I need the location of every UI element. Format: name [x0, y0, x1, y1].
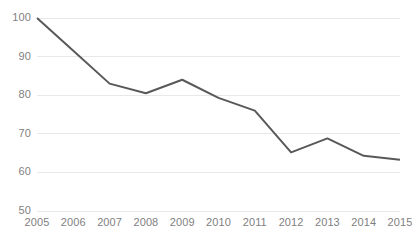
- series-line-index: [37, 18, 400, 211]
- series-line-index: [37, 18, 400, 160]
- x-tick-label: 2014: [351, 216, 376, 228]
- x-tick-label: 2013: [315, 216, 340, 228]
- y-tick-label: 90: [5, 51, 31, 62]
- x-tick-label: 2011: [243, 216, 267, 228]
- x-tick-label: 2006: [61, 216, 86, 228]
- x-tick-label: 2005: [25, 216, 50, 228]
- x-tick-label: 2010: [206, 216, 231, 228]
- y-tick-label: 50: [5, 205, 31, 216]
- x-axis: 2005200620072008200920102011201220132014…: [37, 216, 400, 234]
- y-tick-label: 70: [5, 128, 31, 139]
- y-axis: 5060708090100: [0, 18, 31, 211]
- y-tick-label: 100: [5, 12, 31, 23]
- plot-area: [37, 18, 400, 211]
- x-tick-label: 2007: [97, 216, 122, 228]
- x-tick-label: 2012: [279, 216, 304, 228]
- chart-title: [0, 0, 407, 2]
- x-tick-label: 2009: [170, 216, 195, 228]
- y-tick-label: 80: [5, 89, 31, 100]
- x-tick-label: 2015: [388, 216, 412, 228]
- x-tick-label: 2008: [133, 216, 158, 228]
- y-tick-label: 60: [5, 166, 31, 177]
